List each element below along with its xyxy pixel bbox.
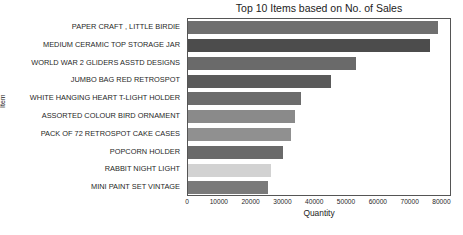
bar xyxy=(188,146,283,159)
y-axis-tick-label: PAPER CRAFT , LITTLE BIRDIE xyxy=(72,18,180,36)
y-axis-title: Item xyxy=(0,94,6,108)
bar-row xyxy=(188,161,450,179)
bar-row xyxy=(188,144,450,162)
bar xyxy=(188,164,271,177)
y-axis-tick-label: WORLD WAR 2 GLIDERS ASSTD DESIGNS xyxy=(31,54,180,72)
bar-row xyxy=(188,108,450,126)
bar-row xyxy=(188,126,450,144)
x-axis-tick-label: 30000 xyxy=(273,198,291,205)
y-axis-tick-label: PACK OF 72 RETROSPOT CAKE CASES xyxy=(41,125,180,143)
bar xyxy=(188,75,331,88)
y-axis-tick-label: MEDIUM CERAMIC TOP STORAGE JAR xyxy=(43,36,180,54)
bar-row xyxy=(188,19,450,37)
chart-title: Top 10 Items based on No. of Sales xyxy=(187,2,451,14)
y-axis-tick-label: ASSORTED COLOUR BIRD ORNAMENT xyxy=(42,107,180,125)
y-axis-tick-label: JUMBO BAG RED RETROSPOT xyxy=(71,71,180,89)
y-axis-tick-label: MINI PAINT SET VINTAGE xyxy=(91,178,180,196)
x-axis-tick-label: 60000 xyxy=(369,198,387,205)
bar xyxy=(188,21,438,34)
bar-row xyxy=(188,72,450,90)
x-axis-tick-label: 50000 xyxy=(337,198,355,205)
bar-row xyxy=(188,90,450,108)
y-axis-tick-labels: PAPER CRAFT , LITTLE BIRDIEMEDIUM CERAMI… xyxy=(8,18,184,196)
x-axis-title: Quantity xyxy=(187,208,451,218)
bar-row xyxy=(188,179,450,197)
sales-bar-chart: Top 10 Items based on No. of Sales Item … xyxy=(0,0,463,235)
bar xyxy=(188,39,430,52)
bar-row xyxy=(188,37,450,55)
x-axis-tick-label: 70000 xyxy=(400,198,418,205)
y-axis-tick-label: POPCORN HOLDER xyxy=(110,143,180,161)
bar xyxy=(188,181,268,194)
bar xyxy=(188,92,301,105)
x-axis-tick-label: 20000 xyxy=(241,198,259,205)
bar xyxy=(188,128,291,141)
bar xyxy=(188,110,295,123)
bar xyxy=(188,57,356,70)
plot-area xyxy=(187,18,451,196)
x-axis-tick-label: 40000 xyxy=(305,198,323,205)
x-axis-tick-label: 0 xyxy=(185,198,189,205)
y-axis-tick-label: RABBIT NIGHT LIGHT xyxy=(105,160,180,178)
bar-series xyxy=(188,19,450,195)
x-axis-tick-label: 10000 xyxy=(210,198,228,205)
bar-row xyxy=(188,55,450,73)
x-axis-tick-label: 80000 xyxy=(432,198,450,205)
y-axis-tick-label: WHITE HANGING HEART T-LIGHT HOLDER xyxy=(30,89,180,107)
